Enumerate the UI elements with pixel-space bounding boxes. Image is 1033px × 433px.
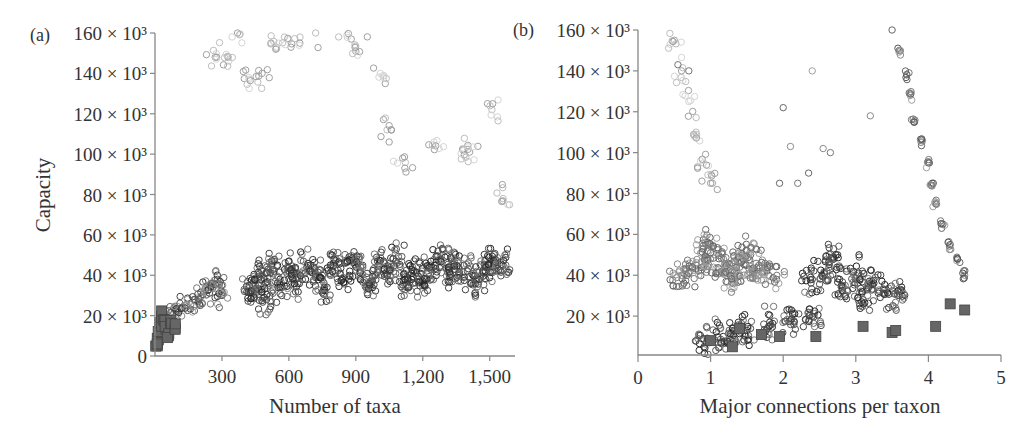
x-tick-label: 600	[275, 366, 304, 387]
data-point-circle	[693, 114, 699, 120]
data-point-circle	[809, 68, 815, 74]
data-point-circle	[390, 158, 396, 164]
y-tick-label: 20 × 10³	[83, 306, 147, 327]
data-point-circle	[207, 301, 213, 307]
data-point-circle	[504, 246, 510, 252]
data-point-circle	[830, 246, 836, 252]
data-point-circle	[742, 233, 748, 239]
data-point-circle	[298, 249, 304, 255]
x-tick-label: 300	[208, 366, 237, 387]
data-point-circle	[889, 27, 895, 33]
data-point-circle	[665, 45, 671, 51]
panel-a-y-axis-title: Capacity	[31, 157, 55, 232]
x-tick-label: 2	[778, 367, 788, 388]
data-point-circle	[481, 288, 487, 294]
x-tick-label: 3	[851, 367, 861, 388]
data-point-circle	[815, 258, 821, 264]
data-point-circle	[409, 165, 415, 171]
y-tick-label: 40 × 10³	[566, 265, 630, 286]
data-point-circle	[461, 135, 467, 141]
data-point-circle	[784, 307, 790, 313]
data-point-circle	[239, 276, 245, 282]
data-point-circle	[674, 261, 680, 267]
data-point-circle	[305, 246, 311, 252]
data-point-circle	[503, 250, 509, 256]
data-point-circle	[380, 116, 386, 122]
x-tick-label: 1,200	[401, 366, 444, 387]
data-point-circle	[800, 323, 806, 329]
x-tick-label: 1	[706, 367, 716, 388]
data-point-circle	[761, 303, 767, 309]
data-point-circle	[680, 91, 686, 97]
data-point-circle	[471, 157, 477, 163]
panel-b-x-axis-title: Major connections per taxon	[700, 394, 941, 418]
data-point-circle	[805, 170, 811, 176]
data-point-circle	[691, 93, 697, 99]
data-point-square	[811, 332, 821, 342]
data-point-square	[931, 321, 941, 331]
panel-b-y-ticks: 20 × 10³40 × 10³60 × 10³80 × 10³100 × 10…	[557, 20, 638, 327]
x-tick-label: 1,500	[468, 366, 511, 387]
data-point-circle	[691, 275, 697, 281]
data-point-circle	[713, 235, 719, 241]
data-point-circle	[220, 62, 226, 68]
y-tick-label: 100 × 10³	[74, 144, 148, 165]
data-point-circle	[699, 178, 705, 184]
y-tick-label: 60 × 10³	[566, 224, 630, 245]
y-tick-label: 20 × 10³	[566, 306, 630, 327]
data-point-circle	[203, 51, 209, 57]
data-point-circle	[229, 34, 235, 40]
panel-b-scatter-plot: (b) 20 × 10³40 × 10³60 × 10³80 × 10³100 …	[513, 20, 1006, 418]
data-point-circle	[780, 104, 786, 110]
data-point-circle	[714, 186, 720, 192]
data-point-circle	[787, 143, 793, 149]
data-point-circle	[795, 180, 801, 186]
y-tick-label: 60 × 10³	[83, 225, 147, 246]
data-point-circle	[386, 139, 392, 145]
data-point-circle	[675, 62, 681, 68]
data-point-circle	[686, 68, 692, 74]
data-point-circle	[776, 180, 782, 186]
data-point-circle	[394, 160, 400, 166]
panel-a-scatter-plot: (a) 020 × 10³40 × 10³60 × 10³80 × 10³100…	[30, 23, 515, 418]
data-point-circle	[312, 30, 318, 36]
data-point-circle	[667, 30, 673, 36]
data-point-circle	[462, 286, 468, 292]
data-point-circle	[721, 285, 727, 291]
data-point-circle	[867, 113, 873, 119]
y-tick-label: 140 × 10³	[557, 61, 631, 82]
data-point-square	[170, 319, 180, 329]
data-point-circle	[445, 285, 451, 291]
data-point-circle	[866, 307, 872, 313]
y-tick-label: 100 × 10³	[557, 143, 631, 164]
data-point-circle	[317, 257, 323, 263]
data-point-square	[858, 321, 868, 331]
y-tick-label: 160 × 10³	[74, 23, 148, 44]
panel-b-x-ticks: 012345	[633, 355, 1006, 388]
data-point-circle	[370, 65, 376, 71]
data-point-circle	[216, 39, 222, 45]
data-point-circle	[495, 118, 501, 124]
data-point-circle	[287, 250, 293, 256]
data-point-circle	[827, 149, 833, 155]
data-point-circle	[229, 54, 235, 60]
data-point-circle	[239, 40, 245, 46]
data-point-circle	[770, 303, 776, 309]
data-point-circle	[671, 73, 677, 79]
data-point-circle	[256, 257, 262, 263]
data-point-circle	[494, 190, 500, 196]
y-tick-label: 80 × 10³	[83, 185, 147, 206]
x-tick-label: 0	[633, 367, 643, 388]
data-point-circle	[673, 79, 679, 85]
panel-b-label: (b)	[513, 20, 534, 41]
data-point-circle	[345, 286, 351, 292]
panel-a-label: (a)	[30, 25, 50, 46]
data-point-circle	[702, 151, 708, 157]
data-point-square	[727, 342, 737, 352]
data-point-square	[706, 336, 716, 346]
panel-a-y-ticks: 020 × 10³40 × 10³60 × 10³80 × 10³100 × 1…	[74, 23, 155, 367]
data-point-circle	[727, 320, 733, 326]
panel-b-data-points	[665, 27, 969, 358]
y-tick-label: 0	[138, 346, 148, 367]
panel-a-x-ticks: 3006009001,2001,500	[208, 356, 511, 387]
